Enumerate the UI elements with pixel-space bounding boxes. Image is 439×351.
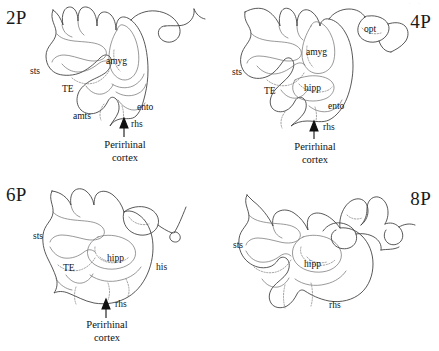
anno-8p-sts: sts [233,240,243,251]
anno-6p-rhs: rhs [115,299,127,310]
anno-4p-sts: sts [232,67,242,78]
anno-2p-ento: ento [137,102,153,113]
anno-4p-opt: opt [364,24,376,35]
panel-8p: 8P sts hipp rhs [219,175,439,351]
anno-6p-his: his [156,262,167,273]
anno-8p-hipp: hipp [304,259,321,270]
anno-4p-rhs: rhs [323,122,335,133]
anno-2p-amyg: amyg [106,56,127,67]
panel-8p-drawing [219,175,439,351]
panel-label-6p: 6P [6,185,27,204]
anno-2p-amts: amts [73,111,91,122]
anno-6p-sts: sts [33,231,43,242]
panel-label-2p: 2P [6,8,27,27]
callout-4p-line2: cortex [278,153,352,166]
panel-6p: 6P sts TE hipp his rhs Perirhinal cortex [0,175,220,351]
callout-6p-line2: cortex [70,331,144,344]
callout-2p-line2: cortex [88,151,162,164]
anno-6p-hipp: hipp [107,253,124,264]
anno-2p-rhs: rhs [131,119,143,130]
panel-4p: · · [219,0,439,175]
anno-4p-hipp: hipp [304,83,321,94]
callout-2p-line1: Perirhinal [88,138,162,151]
callout-4p-line1: Perirhinal [278,140,352,153]
anno-4p-ento: ento [328,101,344,112]
anno-2p-te: TE [62,84,74,95]
anno-4p-amyg: amyg [306,47,327,58]
panel-label-8p: 8P [410,189,431,208]
panel-2p: 2P sts TE amyg amts ento rhs Perirhinal … [0,0,220,175]
anno-4p-te: TE [264,86,276,97]
anno-8p-rhs: rhs [329,300,341,311]
anno-6p-te: TE [63,263,75,274]
callout-6p-line1: Perirhinal [70,318,144,331]
anno-2p-sts: sts [30,66,40,77]
brain-section-figure: 2P sts TE amyg amts ento rhs Perirhinal … [0,0,439,351]
panel-label-4p: 4P [410,12,431,31]
